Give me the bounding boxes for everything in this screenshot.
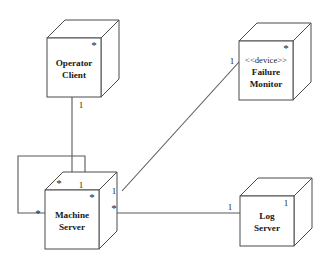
node-operator-client-corner-multiplicity: * (91, 39, 97, 51)
multiplicity-log-server-end: 1 (228, 202, 233, 212)
multiplicity-machine-server-self-from: * (56, 177, 62, 189)
uml-deployment-diagram: * Operator Client * <<device>> Failure M… (0, 0, 335, 263)
node-log-server-label-line1: Log (259, 211, 275, 221)
node-operator-client-label-line1: Operator (56, 58, 93, 68)
multiplicity-machine-server-failure-end: 1 (112, 186, 117, 196)
node-machine-server-label-line2: Server (59, 222, 85, 232)
node-log-server-label-line2: Server (254, 223, 280, 233)
node-operator-client[interactable]: * Operator Client (47, 20, 119, 97)
node-log-server[interactable]: 1 Log Server (240, 178, 312, 246)
multiplicity-machine-server-operator-end: 1 (79, 180, 84, 190)
node-operator-client-label-line2: Client (62, 70, 87, 80)
multiplicity-operator-client-end: 1 (79, 100, 84, 110)
diagram-canvas-svg: * Operator Client * <<device>> Failure M… (0, 0, 335, 263)
multiplicity-machine-server-self-to: * (35, 207, 41, 219)
node-log-server-corner-multiplicity: 1 (284, 198, 289, 208)
node-machine-server-label-line1: Machine (55, 210, 89, 220)
association-line-machine-failure (122, 62, 239, 191)
association-machine-server-failure-monitor[interactable] (122, 62, 239, 191)
node-failure-monitor-label-line1: Failure (252, 67, 280, 77)
node-failure-monitor[interactable]: * <<device>> Failure Monitor (239, 23, 311, 100)
multiplicity-failure-monitor-end: 1 (230, 56, 235, 66)
node-machine-server-corner-multiplicity: * (89, 191, 95, 203)
node-failure-monitor-label-line2: Monitor (250, 79, 283, 89)
multiplicity-machine-server-log-end: * (111, 202, 117, 214)
node-failure-monitor-stereotype: <<device>> (245, 55, 287, 65)
node-failure-monitor-corner-multiplicity: * (283, 42, 289, 54)
